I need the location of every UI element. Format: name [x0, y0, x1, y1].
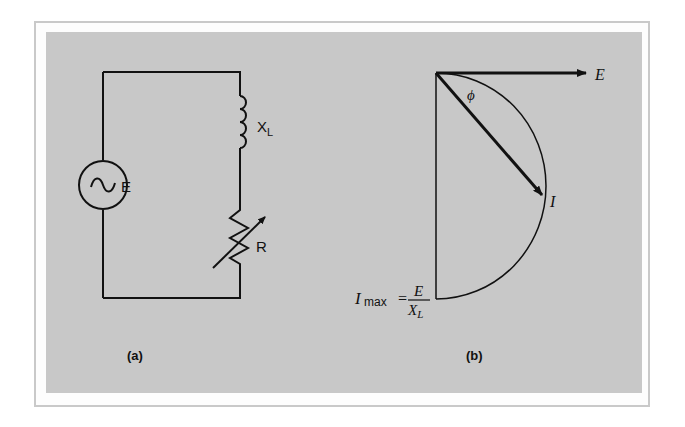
imax-formula: I max = E XL	[354, 283, 430, 320]
current-label: I	[549, 193, 556, 210]
ac-source-sine	[91, 178, 115, 191]
circuit-wire-bottom	[103, 272, 240, 298]
imax-symbol: I	[354, 289, 362, 308]
figure-diagram: E XL R (a) E I ϕ I max = E XL (b)	[0, 0, 685, 427]
voltage-label: E	[594, 66, 605, 83]
phase-angle-label: ϕ	[467, 87, 475, 103]
current-locus-semicircle	[436, 73, 546, 299]
resistor-label: R	[256, 238, 267, 255]
source-label: E	[121, 178, 131, 195]
inductor-coil	[240, 96, 246, 148]
circuit-diagram	[79, 72, 248, 298]
current-phasor-arrow	[436, 73, 542, 195]
caption-b: (b)	[466, 348, 483, 363]
caption-a: (a)	[127, 348, 143, 363]
fraction-denominator: XL	[407, 302, 423, 320]
fraction-numerator: E	[413, 283, 423, 299]
circuit-wire-top	[103, 72, 240, 96]
resistor-zigzag	[230, 205, 248, 272]
inductor-label: XL	[257, 118, 273, 138]
imax-subscript: max	[364, 295, 387, 309]
phasor-diagram	[436, 73, 546, 299]
equals-sign: =	[397, 290, 408, 307]
